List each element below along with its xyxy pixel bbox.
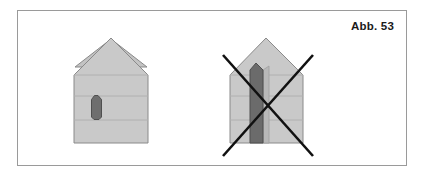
figure-illustration (18, 11, 406, 165)
figure-panel: Abb. 53 (17, 10, 407, 166)
house-incorrect (223, 38, 313, 156)
figure-root: Abb. 53 (0, 0, 426, 181)
house-incorrect-oversized-window-icon (250, 63, 263, 143)
house-correct-outline (74, 38, 148, 143)
house-correct (74, 38, 148, 143)
house-correct-window-icon (92, 96, 102, 120)
